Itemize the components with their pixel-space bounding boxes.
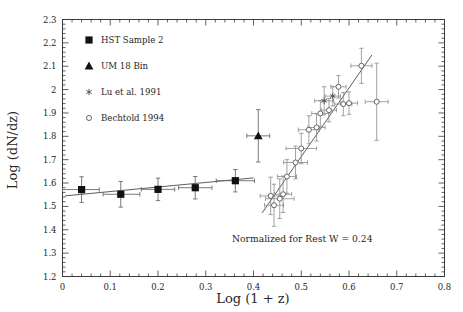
legend-item-label: Bechtold 1994 xyxy=(101,113,165,123)
data-point-open-circle xyxy=(374,99,379,104)
x-tick-label: 0.1 xyxy=(103,282,117,292)
x-tick-label: 0 xyxy=(60,282,65,292)
data-point-filled-square xyxy=(154,186,161,193)
x-tick-label: 0.3 xyxy=(199,282,213,292)
y-tick-label: 1.4 xyxy=(43,225,57,235)
data-point-open-circle xyxy=(299,146,304,151)
data-point-filled-square xyxy=(232,177,239,184)
data-point-open-circle xyxy=(318,111,323,116)
x-tick-label: 0.7 xyxy=(390,282,404,292)
data-point-filled-square xyxy=(117,191,124,198)
y-tick-label: 2.3 xyxy=(43,15,57,25)
x-tick-label: 0.2 xyxy=(151,282,165,292)
y-tick-label: 1.3 xyxy=(43,248,57,258)
data-point-open-circle xyxy=(284,174,289,179)
y-tick-label: 1.9 xyxy=(43,108,57,118)
legend-marker-filled-square xyxy=(85,36,92,43)
legend-marker-open-circle xyxy=(87,116,92,121)
y-tick-label: 2 xyxy=(51,85,56,95)
data-point-open-circle xyxy=(293,160,298,165)
data-point-open-circle xyxy=(341,102,346,107)
data-point-open-circle xyxy=(326,108,331,113)
x-tick-label: 0.8 xyxy=(438,282,452,292)
data-point-open-circle xyxy=(268,193,273,198)
normalization-annotation: Normalized for Rest W = 0.24 xyxy=(232,233,373,244)
data-point-open-circle xyxy=(359,63,364,68)
x-tick-label: 0.5 xyxy=(294,282,308,292)
data-point-open-circle xyxy=(336,84,341,89)
x-tick-label: 0.6 xyxy=(342,282,356,292)
y-tick-label: 2.1 xyxy=(43,61,57,71)
y-tick-label: 1.6 xyxy=(43,178,57,188)
data-point-open-circle xyxy=(306,127,311,132)
x-tick-label: 0.4 xyxy=(247,282,261,292)
data-point-filled-square xyxy=(192,184,199,191)
legend-item-label: HST Sample 2 xyxy=(101,35,164,45)
data-point-open-circle xyxy=(347,101,352,106)
data-point-open-circle xyxy=(272,203,277,208)
figure-container: 00.10.20.30.40.50.60.70.8 1.21.31.41.51.… xyxy=(0,0,463,312)
data-point-filled-square xyxy=(78,186,85,193)
data-point-open-circle xyxy=(281,192,286,197)
x-axis-title: Log (1 + z) xyxy=(216,291,289,306)
data-point-open-circle xyxy=(314,125,319,130)
chart-svg: 00.10.20.30.40.50.60.70.8 1.21.31.41.51.… xyxy=(0,0,463,312)
y-tick-label: 1.7 xyxy=(43,155,57,165)
figure-background xyxy=(0,0,463,312)
y-axis-title: Log (dN/dz) xyxy=(5,111,20,189)
y-tick-label: 1.8 xyxy=(43,131,57,141)
legend-item-label: Lu et al. 1991 xyxy=(101,87,161,97)
y-tick-label: 1.5 xyxy=(43,201,57,211)
data-point-open-circle xyxy=(277,196,282,201)
y-tick-label: 1.2 xyxy=(43,272,57,282)
legend-item-label: UM 18 Bin xyxy=(101,61,149,71)
y-tick-label: 2.2 xyxy=(43,38,57,48)
